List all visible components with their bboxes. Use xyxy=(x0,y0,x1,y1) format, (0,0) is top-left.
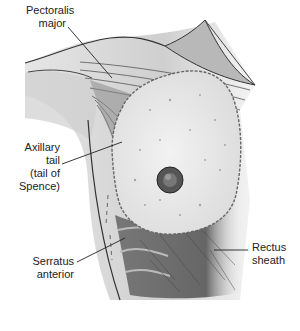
label-serratus-anterior: Serratus anterior xyxy=(20,255,74,281)
label-line: Spence) xyxy=(10,180,60,193)
label-line: major xyxy=(26,17,66,30)
label-rectus-sheath: Rectus sheath xyxy=(252,241,300,267)
label-line: sheath xyxy=(252,254,300,267)
label-line: anterior xyxy=(20,268,74,281)
breast-tissue xyxy=(112,71,241,234)
label-axillary-tail: Axillary tail (tail of Spence) xyxy=(10,141,60,193)
label-line: Pectoralis xyxy=(26,4,66,17)
label-line: (tail of xyxy=(10,167,60,180)
breast-anatomy-diagram: Pectoralis major Axillary tail (tail of … xyxy=(0,0,300,331)
label-line: Axillary xyxy=(10,141,60,154)
label-line: Serratus xyxy=(20,255,74,268)
label-line: Rectus xyxy=(252,241,300,254)
label-pectoralis-major: Pectoralis major xyxy=(26,4,66,30)
label-line: tail xyxy=(10,154,60,167)
